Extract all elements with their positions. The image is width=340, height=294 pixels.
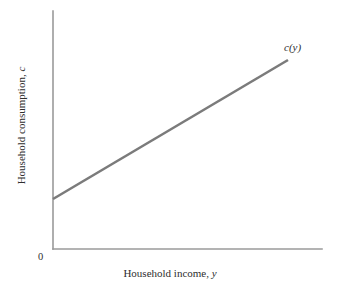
series-label-cy: c(y) <box>284 42 301 53</box>
x-axis-label-text: Household income, <box>123 267 209 279</box>
origin-label: 0 <box>38 252 43 263</box>
x-axis-label: Household income, y <box>0 268 340 279</box>
x-axis-label-variable: y <box>212 267 217 279</box>
y-axis-label: Household consumption, c <box>17 66 28 184</box>
series-label-close-paren: ) <box>297 41 301 53</box>
consumption-function-line <box>53 60 288 199</box>
y-axis-label-variable: c <box>16 66 28 71</box>
y-axis-label-text: Household consumption, <box>16 74 28 184</box>
chart-figure: c(y) 0 Household income, y Household con… <box>0 0 340 294</box>
y-axis-label-container: Household consumption, c <box>0 0 44 250</box>
